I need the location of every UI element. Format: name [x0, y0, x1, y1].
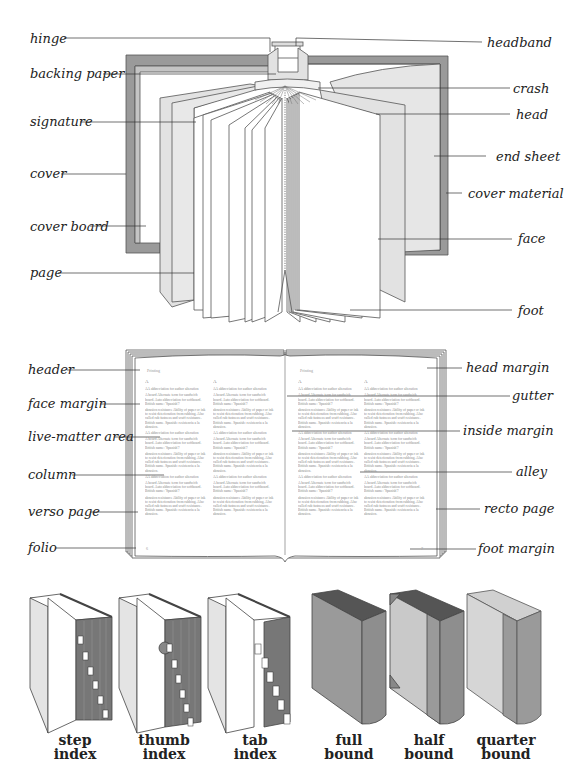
- entry: abrasion resistance Ability of paper or …: [364, 408, 426, 429]
- entry: AA abbreviation for author alteration: [213, 387, 275, 391]
- label-hinge: hinge: [30, 32, 67, 45]
- caption-line: tab: [215, 733, 295, 747]
- entry: A board Alternate term for sandwich boar…: [213, 481, 275, 494]
- entry: AA abbreviation for author alteration: [364, 431, 426, 435]
- entry: abrasion resistance Ability of paper or …: [145, 496, 207, 517]
- recto-column-1: A AA abbreviation for author alteration …: [298, 380, 360, 545]
- entry: AA abbreviation for author alteration: [145, 387, 207, 391]
- entry: A board Alternate term for sandwich boar…: [364, 437, 426, 450]
- entry: A board Alternate term for sandwich boar…: [213, 437, 275, 450]
- verso-column-1: A AA abbreviation for author alteration …: [145, 380, 207, 545]
- caption-full-bound: full bound: [309, 733, 389, 761]
- entry: A board Alternate term for sandwich boar…: [298, 437, 360, 450]
- entry: AA abbreviation for author alteration: [145, 431, 207, 435]
- entry: abrasion resistance Ability of paper or …: [298, 496, 360, 517]
- entry: abrasion resistance Ability of paper or …: [213, 408, 275, 429]
- entry: A board Alternate term for sandwich boar…: [364, 393, 426, 406]
- caption-line: index: [35, 747, 115, 761]
- letter-heading: A: [145, 380, 207, 384]
- entry: A board Alternate term for sandwich boar…: [298, 481, 360, 494]
- running-head-left: Printing: [147, 368, 160, 373]
- caption-line: bound: [309, 747, 389, 761]
- entry: abrasion resistance Ability of paper or …: [298, 408, 360, 429]
- entry: AA abbreviation for author alteration: [298, 387, 360, 391]
- entry: A board Alternate term for sandwich boar…: [298, 393, 360, 406]
- label-cover-material: cover material: [468, 187, 564, 200]
- label-headband: headband: [487, 36, 552, 49]
- entry: AA abbreviation for author alteration: [213, 475, 275, 479]
- label-header: header: [28, 363, 74, 376]
- entry: A board Alternate term for sandwich boar…: [364, 481, 426, 494]
- caption-line: quarter: [466, 733, 546, 747]
- entry: AA abbreviation for author alteration: [145, 475, 207, 479]
- recto-column-2: A AA abbreviation for author alteration …: [364, 380, 426, 545]
- label-head-margin: head margin: [466, 361, 549, 374]
- label-gutter: gutter: [512, 389, 553, 402]
- label-inside-margin: inside margin: [463, 424, 554, 437]
- entry: abrasion resistance Ability of paper or …: [213, 452, 275, 473]
- label-crash: crash: [513, 82, 549, 95]
- label-column: column: [28, 468, 76, 481]
- label-cover-board: cover board: [30, 220, 109, 233]
- folio-right: 7: [421, 546, 423, 551]
- label-folio: folio: [28, 541, 57, 554]
- entry: abrasion resistance Ability of paper or …: [145, 452, 207, 473]
- caption-tab-index: tab index: [215, 733, 295, 761]
- folio-left: 6: [146, 546, 148, 551]
- letter-heading: A: [298, 380, 360, 384]
- label-end-sheet: end sheet: [496, 150, 560, 163]
- label-backing-paper: backing paper: [30, 67, 125, 80]
- entry: A board Alternate term for sandwich boar…: [145, 437, 207, 450]
- caption-line: step: [35, 733, 115, 747]
- verso-column-2: A AA abbreviation for author alteration …: [213, 380, 275, 545]
- letter-heading: A: [213, 380, 275, 384]
- entry: abrasion resistance Ability of paper or …: [213, 496, 275, 517]
- label-page: page: [30, 266, 62, 279]
- caption-line: full: [309, 733, 389, 747]
- label-live-matter-area: live-matter area: [28, 430, 134, 443]
- running-head-right: Printing: [300, 368, 313, 373]
- caption-thumb-index: thumb index: [124, 733, 204, 761]
- label-verso-page: verso page: [28, 505, 100, 518]
- caption-line: bound: [466, 747, 546, 761]
- entry: abrasion resistance Ability of paper or …: [364, 496, 426, 517]
- entry: A board Alternate term for sandwich boar…: [145, 393, 207, 406]
- caption-line: bound: [389, 747, 469, 761]
- entry: AA abbreviation for author alteration: [364, 475, 426, 479]
- entry: AA abbreviation for author alteration: [298, 431, 360, 435]
- label-alley: alley: [516, 465, 547, 478]
- label-foot: foot: [518, 304, 544, 317]
- label-signature: signature: [30, 115, 93, 128]
- caption-line: thumb: [124, 733, 204, 747]
- caption-line: half: [389, 733, 469, 747]
- caption-line: index: [124, 747, 204, 761]
- label-head: head: [516, 108, 548, 121]
- entry: A board Alternate term for sandwich boar…: [145, 481, 207, 494]
- label-recto-page: recto page: [484, 502, 554, 515]
- label-foot-margin: foot margin: [478, 542, 555, 555]
- label-face: face: [518, 232, 546, 245]
- letter-heading: A: [364, 380, 426, 384]
- caption-step-index: step index: [35, 733, 115, 761]
- entry: AA abbreviation for author alteration: [213, 431, 275, 435]
- caption-half-bound: half bound: [389, 733, 469, 761]
- label-cover: cover: [30, 167, 66, 180]
- caption-quarter-bound: quarter bound: [466, 733, 546, 761]
- entry: AA abbreviation for author alteration: [364, 387, 426, 391]
- entry: abrasion resistance Ability of paper or …: [298, 452, 360, 473]
- entry: abrasion resistance Ability of paper or …: [145, 408, 207, 429]
- entry: abrasion resistance Ability of paper or …: [364, 452, 426, 473]
- caption-line: index: [215, 747, 295, 761]
- entry: A board Alternate term for sandwich boar…: [213, 393, 275, 406]
- label-face-margin: face margin: [28, 397, 107, 410]
- entry: AA abbreviation for author alteration: [298, 475, 360, 479]
